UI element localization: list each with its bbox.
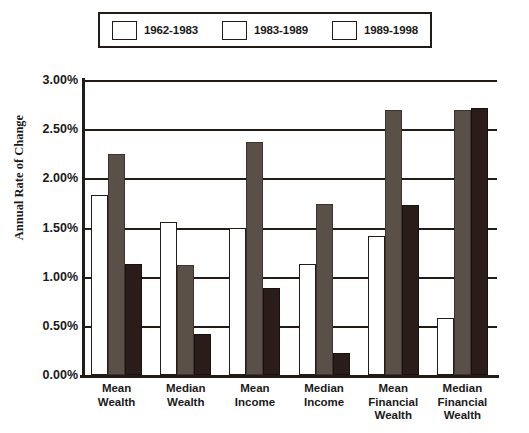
bar <box>229 228 246 376</box>
legend-item-2: 1989-1998 <box>332 21 418 40</box>
x-tick-label: Mean Wealth <box>82 382 151 409</box>
bar-group <box>151 80 220 375</box>
x-tick-label: Mean Financial Wealth <box>359 382 428 423</box>
legend-label-0: 1962-1983 <box>144 24 198 36</box>
bar <box>108 154 125 375</box>
legend-label-2: 1989-1998 <box>364 24 418 36</box>
bar <box>437 318 454 375</box>
x-tick-label: Median Income <box>290 382 359 409</box>
bar <box>368 236 385 375</box>
x-tick-label: Mean Income <box>220 382 289 409</box>
bar <box>333 353 350 375</box>
bar-group <box>290 80 359 375</box>
legend-swatch-1983-1989 <box>222 21 247 40</box>
y-tick-label: 2.50% <box>4 122 78 136</box>
bar <box>194 334 211 375</box>
x-axis-tick-labels: Mean WealthMedian WealthMean IncomeMedia… <box>82 380 497 433</box>
y-tick-label: 0.50% <box>4 319 78 333</box>
legend-swatch-1989-1998 <box>332 21 357 40</box>
plot-area <box>82 80 497 375</box>
bar-group <box>82 80 151 375</box>
y-tick-label: 0.00% <box>4 368 78 382</box>
y-axis-tick-labels: 0.00%0.50%1.00%1.50%2.00%2.50%3.00% <box>0 0 78 433</box>
bar <box>316 204 333 375</box>
bar <box>402 205 419 375</box>
bar-group <box>220 80 289 375</box>
bar <box>385 110 402 375</box>
bar-group <box>359 80 428 375</box>
y-tick-label: 2.00% <box>4 171 78 185</box>
bar <box>263 288 280 375</box>
legend-swatch-1962-1983 <box>112 21 137 40</box>
bar <box>125 264 142 375</box>
y-tick-label: 3.00% <box>4 73 78 87</box>
bar-group <box>428 80 497 375</box>
y-tick-label: 1.50% <box>4 221 78 235</box>
x-tick-label: Median Wealth <box>151 382 220 409</box>
bar <box>299 264 316 375</box>
bar <box>471 108 488 375</box>
bar <box>246 142 263 375</box>
legend-item-1: 1983-1989 <box>222 21 308 40</box>
y-tick-label: 1.00% <box>4 270 78 284</box>
bar-series-container <box>82 80 497 375</box>
chart-legend: 1962-1983 1983-1989 1989-1998 <box>98 12 432 48</box>
x-tick-label: Median Financial Wealth <box>428 382 497 423</box>
x-axis-line <box>80 375 499 378</box>
bar <box>454 110 471 376</box>
bar <box>91 195 108 375</box>
legend-item-0: 1962-1983 <box>112 21 198 40</box>
bar <box>177 265 194 375</box>
bar <box>160 222 177 375</box>
legend-label-1: 1983-1989 <box>254 24 308 36</box>
